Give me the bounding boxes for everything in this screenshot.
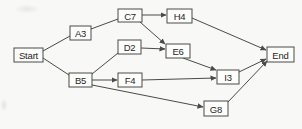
node-f4: F4: [118, 73, 142, 87]
edge-a3-c7: [91, 19, 118, 29]
edge-c7-e6: [140, 22, 165, 44]
node-label-e6: E6: [172, 46, 183, 57]
nodes-layer: StartA3B5C7D2F4H4E6I3G8End: [14, 9, 294, 116]
node-label-end: End: [272, 50, 288, 61]
node-b5: B5: [69, 73, 92, 87]
edge-f4-i3: [142, 78, 216, 80]
edge-h4-end: [192, 18, 266, 50]
node-label-d2: D2: [124, 42, 136, 53]
node-a3: A3: [70, 26, 91, 40]
edge-start-b5: [43, 58, 69, 75]
node-label-b5: B5: [75, 75, 86, 86]
diagram-figure: StartA3B5C7D2F4H4E6I3G8End: [0, 0, 302, 129]
edge-b5-g8: [92, 85, 203, 107]
edge-e6-i3: [183, 58, 216, 70]
node-c7: C7: [118, 9, 142, 22]
node-label-f4: F4: [125, 75, 136, 86]
node-start: Start: [14, 48, 43, 62]
node-label-start: Start: [19, 50, 39, 61]
node-label-h4: H4: [174, 11, 186, 22]
network-diagram-canvas: StartA3B5C7D2F4H4E6I3G8End: [0, 0, 302, 129]
node-label-i3: I3: [224, 72, 232, 83]
node-i3: I3: [217, 70, 239, 84]
node-h4: H4: [167, 9, 192, 23]
node-g8: G8: [204, 101, 228, 116]
node-label-a3: A3: [75, 28, 86, 39]
node-label-g8: G8: [210, 104, 222, 115]
node-end: End: [267, 47, 294, 62]
edge-b5-d2: [92, 53, 118, 74]
edge-start-a3: [43, 36, 70, 51]
node-d2: D2: [118, 40, 141, 54]
edge-d2-e6: [141, 48, 165, 49]
node-e6: E6: [166, 44, 190, 58]
edge-i3-end: [239, 59, 266, 72]
node-label-c7: C7: [124, 11, 136, 22]
